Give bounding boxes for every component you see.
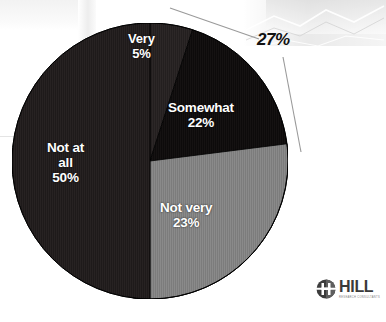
- pie-label-not-at-all-name1: Not at: [47, 140, 84, 155]
- pie-label-not-at-all: Not at all 50%: [47, 140, 84, 185]
- pie-label-very-value: 5%: [128, 47, 155, 62]
- hill-logo-text: HILL RESEARCH CONSULTANTS: [339, 279, 380, 299]
- slide-canvas: Very 5% Somewhat 22% Not at all 50% Not …: [0, 0, 386, 322]
- hill-logo-wordmark: HILL: [339, 279, 380, 295]
- pie-label-not-very: Not very 23%: [160, 200, 212, 230]
- pie-label-very: Very 5%: [128, 32, 155, 61]
- pie-label-somewhat-value: 22%: [168, 115, 234, 130]
- pie-label-not-at-all-name2: all: [47, 155, 84, 170]
- pie-label-somewhat-name: Somewhat: [168, 100, 234, 115]
- pie-label-very-name: Very: [128, 32, 155, 47]
- hill-monogram-icon: [316, 279, 336, 299]
- pie-label-not-very-value: 23%: [160, 215, 212, 230]
- callout-27-percent: 27%: [257, 30, 290, 50]
- hill-logo-tagline: RESEARCH CONSULTANTS: [339, 297, 380, 300]
- pie-label-somewhat: Somewhat 22%: [168, 100, 234, 130]
- hill-logo: HILL RESEARCH CONSULTANTS: [316, 279, 380, 299]
- pie-label-not-at-all-value: 50%: [47, 170, 84, 185]
- pie-label-not-very-name: Not very: [160, 200, 212, 215]
